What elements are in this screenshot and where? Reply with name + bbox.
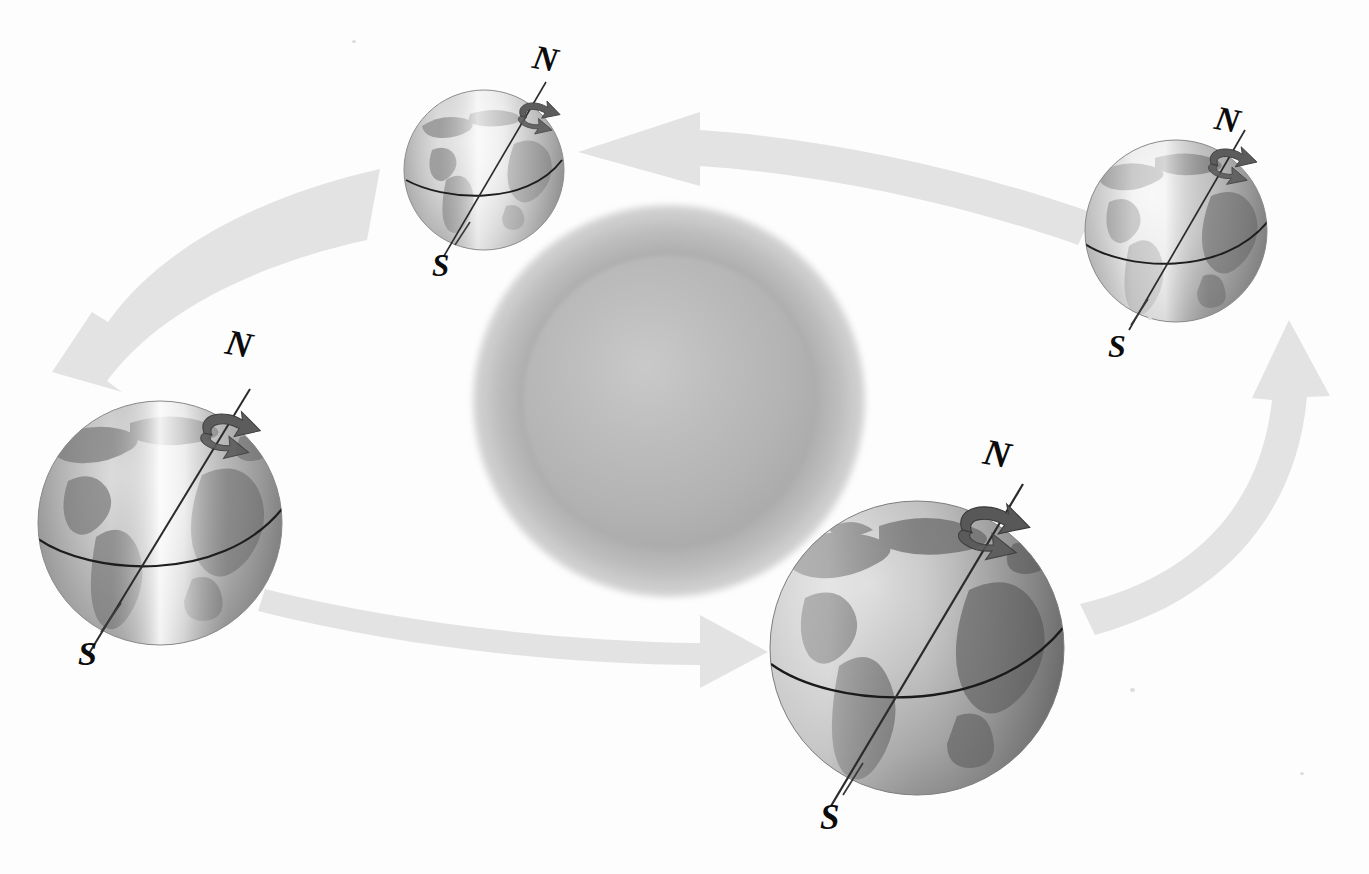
globe-bottom-right-north-label: N bbox=[981, 433, 1014, 474]
globe-bottom-right-south-label: S bbox=[820, 800, 839, 835]
globe-right-south-label: S bbox=[1108, 330, 1126, 362]
paper-speck bbox=[1300, 772, 1304, 775]
globe-right-north-label: N bbox=[1212, 101, 1243, 139]
globe-left bbox=[34, 397, 294, 667]
paper-speck bbox=[352, 40, 356, 43]
globe-right bbox=[1083, 138, 1278, 343]
orbit-diagram-canvas: N S bbox=[0, 0, 1369, 874]
paper-speck bbox=[1130, 688, 1135, 692]
globe-bottom-right bbox=[765, 496, 1075, 816]
paper-speck bbox=[1148, 316, 1152, 320]
globe-left-north-label: N bbox=[223, 324, 255, 364]
globe-top-south-label: S bbox=[432, 250, 449, 281]
globe-top bbox=[402, 88, 574, 278]
globe-top-north-label: N bbox=[530, 40, 561, 78]
globe-left-south-label: S bbox=[78, 637, 97, 671]
